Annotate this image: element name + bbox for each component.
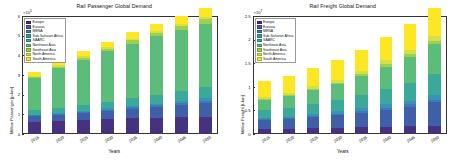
legend-swatch-icon [26, 34, 31, 37]
legend-swatch-icon [257, 53, 262, 56]
y-axis-tick-label: 6 [8, 14, 20, 19]
y-axis-tick-label: 1 [239, 85, 251, 90]
x-axis-tick-mark [386, 132, 387, 134]
x-axis-tick-mark [313, 132, 314, 134]
legend-swatch-icon [257, 39, 262, 42]
x-axis-tick-mark [434, 132, 435, 134]
bar-segment [331, 84, 344, 100]
bar-stack [283, 76, 296, 134]
bar-segment [77, 113, 90, 120]
bar-segment [101, 51, 114, 101]
y-axis-tick-label: 1 [8, 112, 20, 117]
bar-segment [307, 104, 320, 114]
bar-stack [258, 81, 271, 134]
y-axis-tick-label: 2 [239, 37, 251, 42]
x-axis-tick-mark [181, 132, 182, 134]
legend-swatch-icon [257, 34, 262, 37]
bar-segment [283, 108, 296, 116]
legend-item[interactable]: South America [26, 57, 63, 62]
bar-segment [126, 109, 139, 118]
bar-segment [307, 68, 320, 86]
y-axis-tick-label: 2.5 [239, 14, 251, 19]
bar-segment [380, 89, 393, 105]
bar-stack [77, 51, 90, 134]
bar-segment [199, 8, 212, 17]
bar-stack [101, 42, 114, 134]
bar-segment [150, 36, 163, 94]
x-axis-tick-mark [59, 132, 60, 134]
bar-segment [404, 107, 417, 127]
bar-stack [355, 50, 368, 134]
bar-segment [283, 96, 296, 108]
bar-segment [428, 74, 441, 95]
bar-segment [199, 103, 212, 117]
legend-swatch-icon [257, 57, 262, 60]
x-axis-tick-mark [265, 132, 266, 134]
bar-segment [77, 60, 90, 105]
bar-segment [283, 119, 296, 129]
x-axis-tick-mark [289, 132, 290, 134]
y-axis-tick-mark [253, 40, 255, 41]
bar-stack [150, 23, 163, 134]
bar-segment [175, 30, 188, 91]
bar-stack [52, 61, 65, 134]
bar-segment [52, 68, 65, 107]
legend-swatch-icon [26, 39, 31, 42]
legend-item[interactable]: South America [257, 57, 294, 62]
y-axis-tick-label: 1.5 [239, 61, 251, 66]
x-axis-tick-mark [410, 132, 411, 134]
bar-segment [175, 91, 188, 101]
y-axis-tick-mark [253, 63, 255, 64]
bar-segment [126, 98, 139, 106]
bar-segment [150, 24, 163, 31]
bar-segment [355, 50, 368, 71]
bar-segment [101, 111, 114, 119]
y-axis-tick-mark [22, 95, 24, 96]
legend-swatch-icon [26, 25, 31, 28]
bar-stack [428, 8, 441, 134]
bar-stack [404, 24, 417, 134]
bar-segment [331, 115, 344, 128]
x-axis-tick-mark [157, 132, 158, 134]
bar-stack [28, 72, 41, 134]
bar-segment [355, 76, 368, 95]
bar-segment [175, 16, 188, 24]
y-axis-tick-mark [253, 87, 255, 88]
figure-two-panel-charts: Rail Passenger Global Demand ×105 Millio… [0, 0, 457, 162]
bar-segment [404, 24, 417, 49]
bar-segment [28, 78, 41, 110]
y-axis-tick-label: 0.5 [239, 108, 251, 113]
chart-legend: EuropeEurasiaMENASub-Saharan AfricaSAARC… [255, 18, 297, 63]
bar-segment [331, 60, 344, 79]
bar-segment [150, 95, 163, 104]
bar-stack [175, 16, 188, 134]
bar-stack [380, 37, 393, 134]
chart-panel-rail-passenger: Rail Passenger Global Demand ×105 Millio… [0, 0, 229, 162]
bar-segment [428, 8, 441, 36]
bar-segment [404, 57, 417, 83]
y-axis-tick-mark [22, 75, 24, 76]
bar-stack [199, 8, 212, 134]
bar-segment [331, 100, 344, 111]
bar-segment [355, 95, 368, 108]
bar-segment [258, 120, 271, 129]
legend-swatch-icon [257, 25, 262, 28]
x-axis-tick-mark [337, 132, 338, 134]
y-axis-tick-mark [22, 16, 24, 17]
y-axis-tick-label: 3 [8, 73, 20, 78]
legend-swatch-icon [26, 53, 31, 56]
bar-segment [126, 44, 139, 99]
x-axis-tick-mark [34, 132, 35, 134]
legend-swatch-icon [26, 44, 31, 47]
y-axis-tick-mark [253, 134, 255, 135]
bar-stack [331, 60, 344, 134]
bar-segment [380, 110, 393, 127]
legend-swatch-icon [26, 57, 31, 60]
x-axis-tick-mark [108, 132, 109, 134]
bar-stack [126, 32, 139, 134]
y-axis-tick-label: 5 [8, 33, 20, 38]
x-axis-tick-mark [83, 132, 84, 134]
legend-swatch-icon [257, 48, 262, 51]
bar-segment [307, 90, 320, 104]
y-axis-tick-label: 0 [239, 132, 251, 137]
